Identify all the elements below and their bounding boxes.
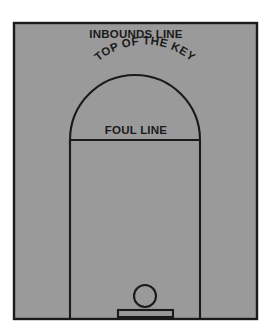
foul-line-label: FOUL LINE: [105, 124, 167, 136]
basketball-key-diagram: INBOUNDS LINE TOP OF THE KEY FOUL LINE: [0, 0, 273, 335]
backboard: [118, 310, 173, 317]
court-outline: [14, 23, 257, 319]
court-diagram-canvas: INBOUNDS LINE TOP OF THE KEY FOUL LINE: [0, 0, 273, 335]
